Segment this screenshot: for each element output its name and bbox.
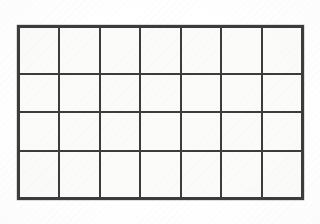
grid-cell-r0c3[interactable] bbox=[140, 27, 181, 75]
grid-cell-r1c0[interactable] bbox=[19, 74, 60, 112]
grid-cell-r3c1[interactable] bbox=[59, 151, 100, 199]
grid-cell-r2c0[interactable] bbox=[19, 112, 60, 150]
table-row bbox=[19, 74, 303, 112]
table-row bbox=[19, 112, 303, 150]
grid-cell-r1c4[interactable] bbox=[181, 74, 222, 112]
grid-cell-r1c5[interactable] bbox=[221, 74, 262, 112]
grid-cell-r1c2[interactable] bbox=[100, 74, 141, 112]
grid-cell-r2c4[interactable] bbox=[181, 112, 222, 150]
grid-cell-r0c1[interactable] bbox=[59, 27, 100, 75]
grid-cell-r2c6[interactable] bbox=[262, 112, 303, 150]
grid-cell-r2c3[interactable] bbox=[140, 112, 181, 150]
grid-cell-r3c6[interactable] bbox=[262, 151, 303, 199]
grid-cell-r1c1[interactable] bbox=[59, 74, 100, 112]
grid-cell-r3c3[interactable] bbox=[140, 151, 181, 199]
grid-cell-r0c0[interactable] bbox=[19, 27, 60, 75]
grid-cell-r1c6[interactable] bbox=[262, 74, 303, 112]
grid-cell-r0c5[interactable] bbox=[221, 27, 262, 75]
grid-cell-r3c5[interactable] bbox=[221, 151, 262, 199]
grid-cell-r3c2[interactable] bbox=[100, 151, 141, 199]
grid-cell-r3c0[interactable] bbox=[19, 151, 60, 199]
grid-table[interactable] bbox=[17, 25, 304, 200]
grid-cell-r0c2[interactable] bbox=[100, 27, 141, 75]
grid-cell-r2c5[interactable] bbox=[221, 112, 262, 150]
page-surface bbox=[0, 0, 320, 224]
grid-cell-r2c2[interactable] bbox=[100, 112, 141, 150]
grid-cell-r1c3[interactable] bbox=[140, 74, 181, 112]
grid-cell-r3c4[interactable] bbox=[181, 151, 222, 199]
grid-cell-r0c6[interactable] bbox=[262, 27, 303, 75]
grid-cell-r2c1[interactable] bbox=[59, 112, 100, 150]
grid-cell-r0c4[interactable] bbox=[181, 27, 222, 75]
table-row bbox=[19, 151, 303, 199]
grid-table-body bbox=[19, 27, 303, 199]
table-row bbox=[19, 27, 303, 75]
